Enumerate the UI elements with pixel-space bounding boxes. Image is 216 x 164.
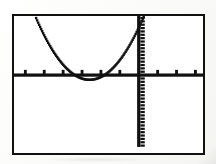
y-tick [140, 101, 144, 103]
y-tick [140, 57, 144, 59]
y-tick [140, 84, 144, 86]
x-tick [43, 70, 46, 75]
y-tick [140, 44, 144, 46]
y-tick [140, 104, 144, 106]
screenshot-root [0, 0, 216, 164]
graphing-calculator-display [12, 14, 205, 155]
curve-pixel [36, 19, 38, 21]
curve-pixel [139, 22, 141, 24]
curve-pixel [142, 16, 144, 18]
curve-pixel [35, 17, 37, 19]
y-axis-line [137, 16, 140, 147]
curve-pixel [136, 29, 138, 31]
curve-pixel [40, 28, 42, 30]
y-tick [140, 87, 144, 89]
y-tick [140, 30, 144, 32]
parabola-curve [35, 16, 145, 81]
y-tick [140, 141, 144, 143]
y-tick [140, 50, 144, 52]
y-tick [140, 54, 144, 56]
y-tick [140, 138, 144, 140]
x-tick [118, 70, 121, 75]
curve-pixel [141, 18, 143, 20]
y-tick [140, 97, 144, 99]
y-tick [140, 124, 144, 126]
y-tick [140, 34, 144, 36]
y-tick [140, 128, 144, 130]
x-tick [24, 70, 27, 75]
page-smudge [40, 157, 150, 162]
curve-pixel [140, 20, 142, 22]
x-tick [175, 70, 178, 75]
y-tick [140, 61, 144, 63]
y-tick [140, 40, 144, 42]
plot-canvas [14, 16, 203, 153]
axes-group [14, 16, 203, 147]
curve-pixel [38, 24, 40, 26]
page-corner-shading [190, 142, 216, 164]
y-tick [140, 71, 144, 73]
y-tick [140, 111, 144, 113]
x-tick [100, 70, 103, 75]
y-tick [140, 91, 144, 93]
x-tick [62, 70, 65, 75]
y-tick [140, 121, 144, 123]
y-tick [140, 64, 144, 66]
y-axis-ticks [140, 17, 144, 147]
curve-pixel [135, 31, 137, 33]
x-tick [156, 70, 159, 75]
y-tick [140, 131, 144, 133]
y-tick [140, 37, 144, 39]
y-tick [140, 27, 144, 29]
y-tick [140, 134, 144, 136]
x-tick [81, 70, 84, 75]
curve-pixel [37, 21, 39, 23]
x-tick [194, 70, 197, 75]
y-tick [140, 108, 144, 110]
curve-pixel [137, 27, 139, 29]
y-tick [140, 114, 144, 116]
y-tick [140, 118, 144, 120]
curve-pixel [138, 24, 140, 26]
y-tick [140, 81, 144, 83]
y-tick [140, 145, 144, 147]
y-tick [140, 47, 144, 49]
curve-pixel [39, 26, 41, 28]
y-tick [140, 77, 144, 79]
y-tick [140, 94, 144, 96]
y-tick [140, 67, 144, 69]
